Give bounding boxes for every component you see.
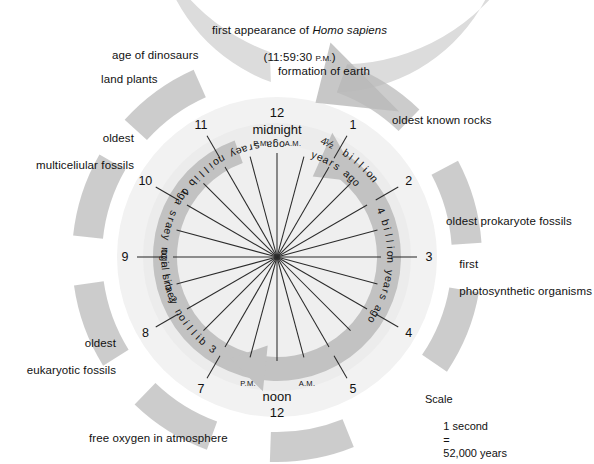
annotation-free-oxygen-in-atmosphere: free oxygen in atmosphere bbox=[89, 432, 228, 446]
clock-hour-number-10: 10 bbox=[138, 174, 152, 188]
svg-text:n: n bbox=[159, 247, 171, 254]
clock-midnight-pm-label: P.M. bbox=[253, 139, 269, 148]
homo-sapiens-pm-label: P.M. bbox=[315, 54, 331, 63]
first-photosynthetic-line1: first bbox=[459, 258, 478, 270]
svg-text:g: g bbox=[272, 139, 278, 151]
clock-hour-number-8: 8 bbox=[142, 326, 149, 340]
annotation-age-of-dinosaurs: age of dinosaurs bbox=[112, 49, 199, 63]
first-photosynthetic-line2: photosynthetic organisms bbox=[459, 285, 592, 297]
annotation-first-photosynthetic-organisms: first photosynthetic organisms bbox=[446, 244, 592, 312]
oldest-eukaryotic-line2: eukaryotic fossils bbox=[27, 364, 116, 376]
clock-noon-label: noon bbox=[263, 389, 292, 404]
clock-midnight-am-label: A.M. bbox=[285, 139, 302, 148]
oldest-multicellular-line2: multiceliular fossils bbox=[36, 159, 134, 171]
homo-sapiens-time-suffix: ) bbox=[332, 51, 336, 63]
outer-ring-segment-1 bbox=[432, 161, 482, 245]
scale-title: Scale bbox=[425, 393, 534, 407]
clock-noon-number: 12 bbox=[270, 405, 284, 420]
homo-sapiens-italic: Homo sapiens bbox=[312, 24, 387, 36]
clock-noon-am-label: A.M. bbox=[299, 379, 316, 388]
scale-legend: Scale 1 second = 52,000 years 1 minute =… bbox=[425, 393, 534, 464]
scale-second-unit: 1 second bbox=[443, 420, 488, 432]
annotation-oldest-known-rocks: oldest known rocks bbox=[392, 114, 492, 128]
clock-hour-number-2: 2 bbox=[405, 174, 412, 188]
svg-text:o: o bbox=[159, 253, 171, 259]
svg-text:o: o bbox=[385, 251, 397, 257]
scale-second-value: 52,000 years bbox=[443, 447, 507, 459]
clock-hour-number-9: 9 bbox=[122, 250, 129, 264]
clock-hour-number-1: 1 bbox=[350, 118, 357, 132]
clock-hour-number-5: 5 bbox=[350, 382, 357, 396]
annotation-formation-of-earth: formation of earth bbox=[278, 65, 370, 79]
outer-ring-segment-7 bbox=[270, 419, 354, 462]
annotation-oldest-multicellular-fossils: oldest multiceliular fossils bbox=[0, 118, 134, 186]
figure-canvas: 4½ billionyears ago4 billion years ago3 … bbox=[0, 0, 594, 464]
homo-sapiens-time-prefix: (11:59:30 bbox=[264, 51, 316, 63]
clock-hour-number-3: 3 bbox=[426, 250, 433, 264]
clock-noon-pm-label: P.M. bbox=[240, 379, 256, 388]
clock-spokes bbox=[173, 153, 381, 361]
homo-sapiens-line1-prefix: first appearance of bbox=[212, 24, 312, 36]
clock-hour-number-4: 4 bbox=[405, 326, 412, 340]
annotation-land-plants: land plants bbox=[101, 73, 158, 87]
scale-second-eq: = bbox=[443, 434, 449, 446]
annotation-oldest-eukaryotic-fossils: oldest eukaryotic fossils bbox=[0, 323, 116, 391]
clock-hour-number-11: 11 bbox=[195, 118, 208, 132]
scale-row-second: 1 second = 52,000 years bbox=[425, 407, 534, 464]
oldest-multicellular-line1: oldest bbox=[103, 132, 134, 144]
annotation-oldest-prokaryote-fossils: oldest prokaryote fossils bbox=[446, 215, 572, 229]
svg-text:n: n bbox=[385, 257, 397, 263]
clock-midnight-label: midnight bbox=[252, 122, 301, 137]
clock-midnight-number: 12 bbox=[270, 105, 284, 120]
oldest-eukaryotic-line1: oldest bbox=[85, 337, 116, 349]
clock-hour-number-7: 7 bbox=[198, 382, 205, 396]
